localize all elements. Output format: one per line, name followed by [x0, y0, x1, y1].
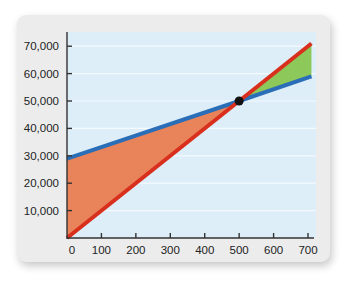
- y-tick-label: 30,000: [24, 150, 59, 162]
- x-tick-label: 400: [195, 244, 214, 256]
- x-tick-label: 500: [230, 244, 249, 256]
- x-axis-labels: 0100200300400500600700: [69, 244, 318, 256]
- y-tick-label: 50,000: [24, 95, 59, 107]
- y-tick-label: 20,000: [24, 177, 59, 189]
- y-tick-label: 60,000: [24, 68, 59, 80]
- x-tick-label: 600: [264, 244, 283, 256]
- x-tick-label: 0: [69, 244, 75, 256]
- y-axis-labels: 10,00020,00030,00040,00050,00060,00070,0…: [24, 40, 59, 216]
- x-tick-label: 100: [92, 244, 111, 256]
- y-tick-label: 40,000: [24, 122, 59, 134]
- x-tick-label: 300: [161, 244, 180, 256]
- intersection-point: [235, 97, 244, 106]
- y-tick-label: 10,000: [24, 205, 59, 217]
- y-tick-label: 70,000: [24, 40, 59, 52]
- break-even-chart: 10,00020,00030,00040,00050,00060,00070,0…: [0, 0, 354, 289]
- x-tick-label: 200: [126, 244, 145, 256]
- x-tick-label: 700: [298, 244, 317, 256]
